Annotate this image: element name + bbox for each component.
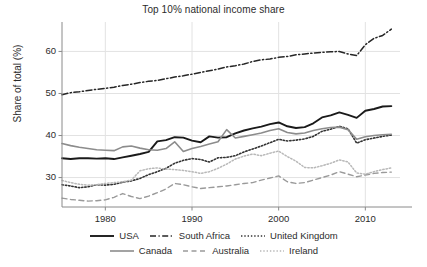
series-line-ireland bbox=[62, 151, 391, 185]
series-line-south-africa bbox=[62, 29, 391, 95]
legend-row: USASouth AfricaUnited Kingdom bbox=[0, 228, 427, 243]
plot-area bbox=[0, 0, 427, 267]
legend-line-swatch bbox=[89, 231, 115, 241]
chart-legend: USASouth AfricaUnited Kingdom CanadaAust… bbox=[0, 228, 427, 258]
legend-label: USA bbox=[119, 230, 139, 241]
legend-label: Australia bbox=[212, 245, 249, 256]
legend-line-swatch bbox=[109, 246, 135, 256]
legend-line-swatch bbox=[240, 231, 266, 241]
chart-figure: Top 10% national income share Share of t… bbox=[0, 0, 427, 267]
legend-item-ireland[interactable]: Ireland bbox=[259, 245, 318, 256]
legend-item-united-kingdom[interactable]: United Kingdom bbox=[240, 230, 338, 241]
legend-label: Ireland bbox=[289, 245, 318, 256]
legend-item-australia[interactable]: Australia bbox=[182, 245, 249, 256]
legend-label: Canada bbox=[139, 245, 172, 256]
series-line-australia bbox=[62, 172, 391, 201]
legend-line-swatch bbox=[259, 246, 285, 256]
legend-item-usa[interactable]: USA bbox=[89, 230, 139, 241]
legend-item-south-africa[interactable]: South Africa bbox=[149, 230, 230, 241]
legend-item-canada[interactable]: Canada bbox=[109, 245, 172, 256]
legend-line-swatch bbox=[182, 246, 208, 256]
legend-label: South Africa bbox=[179, 230, 230, 241]
legend-row: CanadaAustraliaIreland bbox=[0, 243, 427, 258]
legend-label: United Kingdom bbox=[270, 230, 338, 241]
legend-line-swatch bbox=[149, 231, 175, 241]
series-line-canada bbox=[62, 127, 391, 151]
